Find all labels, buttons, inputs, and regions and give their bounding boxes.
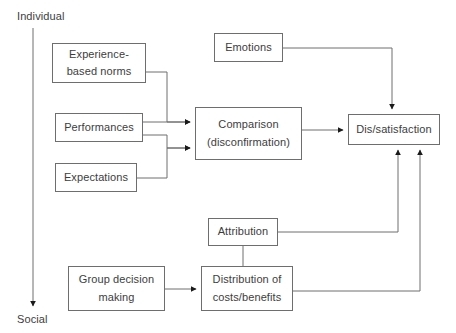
node-label-line1: Dis/satisfaction: [356, 121, 432, 138]
node-label-line2: (disconfirmation): [207, 134, 290, 151]
axis-label-individual: Individual: [17, 10, 64, 22]
node-emotions[interactable]: Emotions: [214, 33, 283, 62]
node-label-line1: Distribution of: [213, 271, 282, 288]
edge-performances-to-comparison-bottom: [143, 135, 190, 148]
node-label-line2: based norms: [67, 63, 132, 80]
edge-emotions-to-dis-satisfaction: [283, 48, 392, 109]
edge-expectations-to-comparison: [137, 148, 190, 178]
node-label-line1: Comparison: [218, 116, 278, 133]
node-performances[interactable]: Performances: [55, 113, 143, 142]
node-label-line1: Expectations: [64, 169, 128, 186]
node-expectations[interactable]: Expectations: [55, 163, 137, 192]
node-label-line1: Performances: [64, 119, 134, 136]
node-comparison[interactable]: Comparison (disconfirmation): [195, 107, 302, 160]
axis-label-social: Social: [17, 313, 48, 325]
node-experience-based-norms[interactable]: Experience- based norms: [52, 43, 146, 83]
edge-experience-norms-to-comparison: [146, 72, 190, 122]
edge-distribution-to-dis-satisfaction: [293, 150, 420, 291]
node-label-line2: costs/benefits: [213, 289, 282, 306]
node-group-decision-making[interactable]: Group decision making: [68, 266, 165, 311]
diagram-canvas: Individual Social Experience- based norm…: [0, 0, 456, 333]
node-distribution-costs-benefits[interactable]: Distribution of costs/benefits: [201, 266, 293, 311]
node-label-line1: Experience-: [69, 46, 129, 63]
node-label-line2: making: [98, 289, 134, 306]
edge-attribution-to-dis-satisfaction: [278, 150, 398, 232]
node-label-line1: Group decision: [79, 271, 154, 288]
node-attribution[interactable]: Attribution: [208, 218, 278, 246]
node-label-line1: Attribution: [218, 223, 269, 240]
node-dis-satisfaction[interactable]: Dis/satisfaction: [348, 114, 440, 145]
node-label-line1: Emotions: [225, 39, 272, 56]
